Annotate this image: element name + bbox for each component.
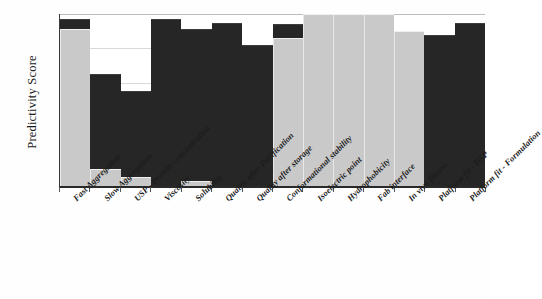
x-axis-labels: Fast AggregationSlow AggregationUSP - Pr…: [0, 190, 492, 299]
bar-segment-dark: [60, 19, 90, 29]
bar-column[interactable]: [212, 14, 242, 186]
bar-column[interactable]: [424, 14, 454, 186]
bar-segment-dark: [181, 29, 211, 180]
bar-column[interactable]: [60, 14, 90, 186]
bar-segment-dark: [212, 23, 242, 186]
bar-segment-light: [60, 29, 90, 186]
bar-column[interactable]: [181, 14, 211, 186]
y-axis-title: Predictivity Score: [22, 12, 42, 192]
bar-segment-dark: [273, 24, 303, 38]
